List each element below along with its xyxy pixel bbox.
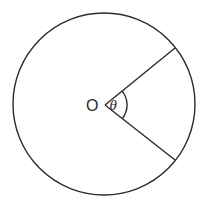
- angle-arc: [122, 91, 127, 119]
- angle-label: θ: [110, 97, 118, 113]
- center-label: O: [86, 97, 98, 114]
- radius-lower: [105, 105, 175, 160]
- circle: [13, 13, 195, 195]
- circle-diagram: O θ: [0, 0, 212, 208]
